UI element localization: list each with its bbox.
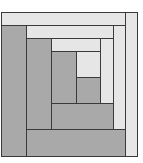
log-cabin-quilt-block	[0, 0, 143, 163]
patch-ring2-bottom-dark	[51, 103, 114, 130]
patch-ring3-left-dark	[51, 51, 77, 104]
patch-outer-right-light	[125, 12, 138, 157]
patch-ring2-left-dark	[26, 38, 52, 130]
patch-outer-top-light	[1, 12, 126, 26]
patch-ring3-right-light	[100, 38, 114, 104]
patch-center-light	[76, 51, 101, 78]
patch-ring2-right-light	[113, 25, 126, 130]
patch-ring3-top-light	[51, 38, 101, 52]
patch-outer-left-dark	[1, 25, 27, 157]
patch-ring2-top-light	[26, 25, 114, 39]
patch-outer-bottom-dark	[26, 129, 126, 157]
patch-center-dark	[76, 77, 101, 104]
